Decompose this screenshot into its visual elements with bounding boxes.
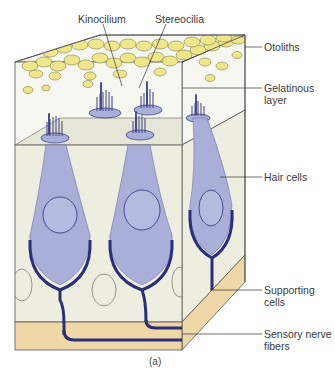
label-gelatinous-layer: Gelatinous layer <box>264 82 334 106</box>
figure-caption: (a) <box>149 356 161 367</box>
label-supporting-cells: Supporting cells <box>264 284 334 308</box>
label-sensory-nerve-fibers: Sensory nerve fibers <box>264 328 334 352</box>
label-stereocilia: Stereocilia <box>155 13 204 25</box>
diagram-illustration <box>0 0 335 378</box>
otolith-organ-diagram: Kinocilium Stereocilia Otoliths Gelatino… <box>0 0 335 378</box>
label-otoliths: Otoliths <box>264 41 300 53</box>
label-kinocilium: Kinocilium <box>78 13 126 25</box>
label-hair-cells: Hair cells <box>264 171 307 183</box>
